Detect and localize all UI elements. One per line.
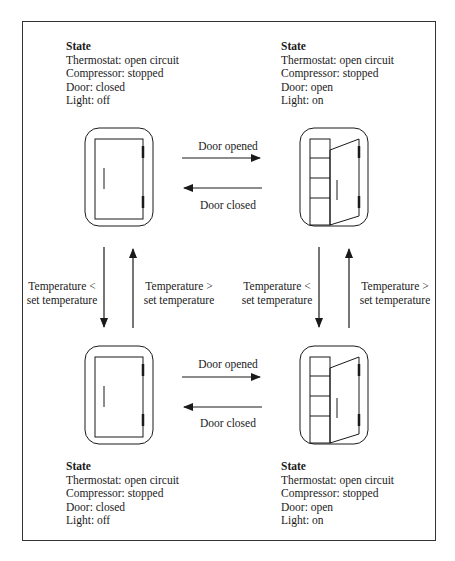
fridge-open-icon bbox=[300, 128, 368, 226]
diagram-graphics bbox=[0, 0, 455, 561]
fridge-closed-icon bbox=[85, 346, 153, 444]
fridge-closed-icon bbox=[85, 128, 153, 226]
fridge-open-icon bbox=[300, 346, 368, 444]
